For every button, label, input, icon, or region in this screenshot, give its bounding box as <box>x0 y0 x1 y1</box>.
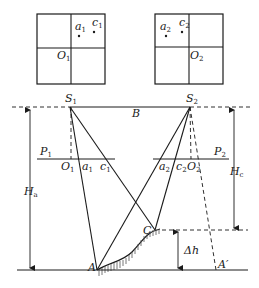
label-a2: a2 <box>160 20 171 34</box>
stereo-parallax-diagram: a1 c1 O1 a2 c2 O2 S1 S2 B P1 P2 O1 a1 c1… <box>0 0 259 288</box>
point-a2 <box>165 35 167 37</box>
label-Ha: Ha <box>23 185 38 199</box>
point-c1 <box>93 31 95 33</box>
label-c2: c2 <box>179 16 190 30</box>
label-S1: S1 <box>65 92 77 106</box>
label-plane-c2: c2 <box>176 160 187 174</box>
label-P2: P2 <box>213 145 226 159</box>
ray-S2-A <box>97 107 190 270</box>
point-a1 <box>78 35 80 37</box>
label-C: C <box>143 224 152 237</box>
point-c2 <box>181 31 183 33</box>
label-S2: S2 <box>186 92 198 106</box>
label-plane-c1: c1 <box>100 160 111 174</box>
label-A: A <box>87 261 96 274</box>
label-plane-O2: O2 <box>187 160 201 174</box>
label-plane-a1: a1 <box>82 160 93 174</box>
label-A-prime: A′ <box>217 258 229 271</box>
label-P1: P1 <box>39 145 52 159</box>
label-O1: O1 <box>57 49 71 63</box>
label-plane-O1: O1 <box>61 160 75 174</box>
right-photo: a2 c2 O2 <box>155 14 223 84</box>
left-photo: a1 c1 O1 <box>37 14 105 84</box>
label-B: B <box>131 107 140 120</box>
label-Hc: Hc <box>229 165 244 179</box>
label-delta-h: Δh <box>183 244 199 257</box>
label-plane-a2: a2 <box>159 160 170 174</box>
label-c1: c1 <box>92 16 103 30</box>
ray-S1-A <box>70 107 97 270</box>
label-O2: O2 <box>190 49 204 63</box>
label-a1: a1 <box>75 20 86 34</box>
